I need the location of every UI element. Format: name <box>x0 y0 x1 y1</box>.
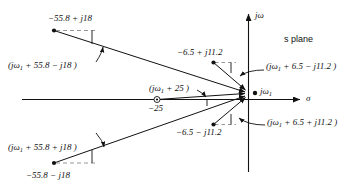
vector-label-lower-left: (jω1 + 55.8 + j18 ) <box>8 143 77 152</box>
evaluation-point-label: jω1 <box>260 87 272 96</box>
vector-from-zero <box>157 94 245 100</box>
pole-label-lower-left: −55.8 − j18 <box>26 171 70 180</box>
angle-reference-lower-right <box>215 114 236 125</box>
pole-zero-diagram <box>0 0 347 191</box>
pole-label-upper-left: −55.8 + j18 <box>48 14 92 23</box>
leader-lower-right <box>239 118 265 125</box>
axis-real-label: σ <box>306 94 310 103</box>
evaluation-point-marker <box>253 91 257 95</box>
plane-label: s plane <box>284 35 313 44</box>
vector-label-upper-left: (jω1 + 55.8 − j18 ) <box>8 61 77 70</box>
vector-label-upper-right: (jω1 + 6.5 − j11.2 ) <box>266 62 336 71</box>
leader-lower-left <box>96 133 104 147</box>
pole-marker-upper-right <box>211 60 215 64</box>
zero-point-label: −25 <box>148 104 163 113</box>
zero-vector-label: (jω1 + 25 ) <box>149 84 189 93</box>
pole-label-upper-right: −6.5 + j11.2 <box>177 48 222 57</box>
pole-marker-lower-right <box>211 122 215 126</box>
axis-imaginary-label: jω <box>255 11 264 20</box>
leader-upper-left <box>96 47 103 62</box>
pole-marker-upper-left <box>52 28 56 32</box>
pole-marker-lower-left <box>52 161 56 165</box>
pole-label-lower-right: −6.5 − j11.2 <box>176 128 221 137</box>
zero-marker-minus-25 <box>154 97 160 103</box>
angle-reference-upper-right <box>215 63 236 74</box>
figure-canvas: −55.8 + j18 (jω1 + 55.8 − j18 ) (jω1 + 5… <box>0 0 347 191</box>
vector-from-pole-upper-right <box>214 63 246 91</box>
leader-upper-right <box>240 70 264 76</box>
leader-zero <box>197 90 206 97</box>
vector-label-lower-right: (jω1 + 6.5 + j11.2 ) <box>267 118 337 127</box>
